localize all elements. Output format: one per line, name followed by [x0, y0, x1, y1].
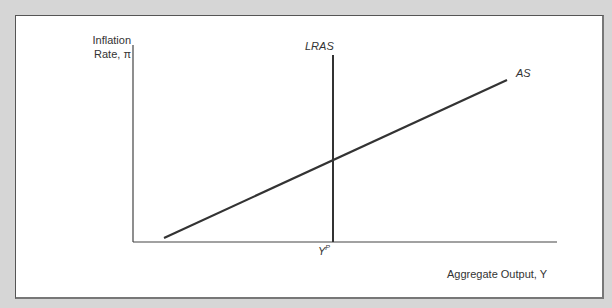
lras-label: LRAS	[305, 40, 334, 52]
y-axis-label-line2: Rate, π	[79, 47, 131, 61]
as-curve	[164, 80, 507, 238]
potential-output-label: YP	[318, 244, 330, 257]
y-axis-label-line1: Inflation	[79, 33, 131, 47]
x-axis-label: Aggregate Output, Y	[447, 268, 547, 280]
yp-superscript: P	[325, 244, 330, 251]
as-label: AS	[516, 67, 531, 79]
y-axis-label: Inflation Rate, π	[79, 33, 131, 61]
